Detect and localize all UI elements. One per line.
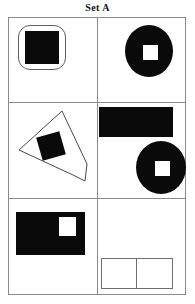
matrix-cell-5[interactable] <box>9 199 97 294</box>
matrix-cell-2[interactable] <box>98 18 185 102</box>
answer-box-half-left[interactable] <box>102 259 137 288</box>
matrix-cell-4[interactable] <box>98 103 185 198</box>
white-square-hole-shape <box>155 161 170 176</box>
black-rectangle-shape <box>99 107 173 137</box>
puzzle-root: Set A <box>0 0 195 304</box>
page-title: Set A <box>0 2 195 13</box>
white-square-hole-shape <box>59 217 76 236</box>
matrix-cell-6[interactable] <box>98 199 185 294</box>
answer-box-half-right[interactable] <box>137 259 172 288</box>
matrix-cell-1[interactable] <box>9 18 97 102</box>
empty-answer-box[interactable] <box>101 258 173 289</box>
matrix-cell-3[interactable] <box>9 103 97 198</box>
black-square-shape <box>25 31 59 64</box>
white-square-hole-shape <box>143 45 158 60</box>
matrix-grid <box>8 17 186 295</box>
